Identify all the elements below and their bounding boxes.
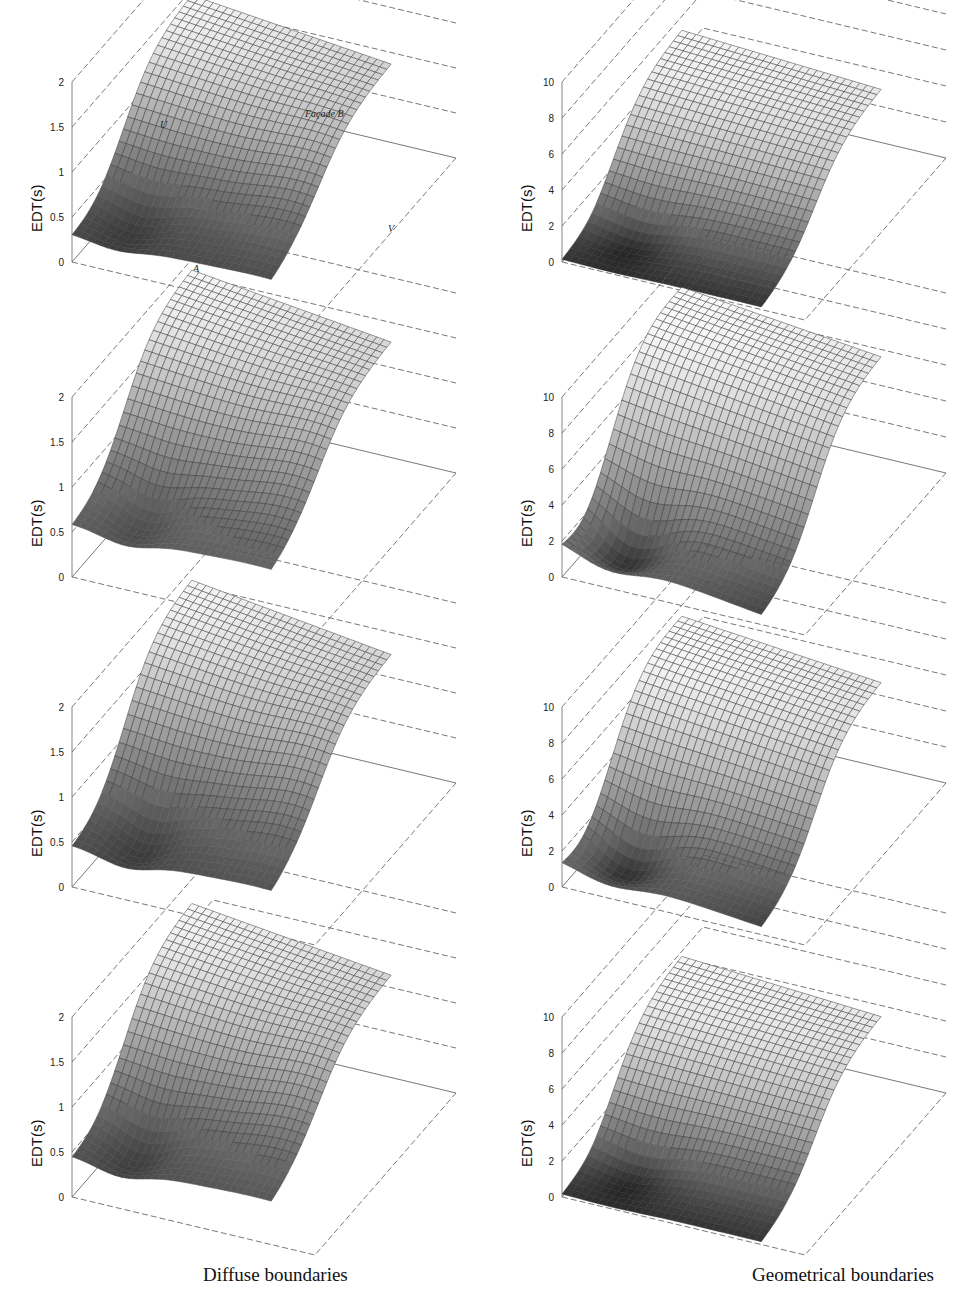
z-tick-label: 4: [548, 500, 554, 511]
z-tick-label: 8: [548, 113, 554, 124]
z-tick-label: 10: [543, 77, 555, 88]
z-tick-label: 2: [58, 702, 64, 713]
z-tick-label: 0: [548, 882, 554, 893]
z-tick-label: 2: [58, 392, 64, 403]
z-tick-label: 8: [548, 1048, 554, 1059]
z-tick-label: 2: [548, 221, 554, 232]
surface-plot-row2-left: 00.511.52 EDT(s): [0, 315, 480, 620]
z-axis-label: EDT(s): [518, 500, 535, 548]
surface-plot-row4-right: 0246810 EDT(s): [490, 935, 970, 1240]
surface-chart: 0246810: [490, 315, 970, 620]
z-tick-label: 0.5: [50, 837, 64, 848]
z-tick-label: 6: [548, 774, 554, 785]
z-tick-label: 2: [548, 846, 554, 857]
surface-chart: 0246810: [490, 625, 970, 930]
z-tick-label: 10: [543, 392, 555, 403]
surface-mesh: [72, 270, 391, 569]
z-tick-label: 0: [58, 257, 64, 268]
z-tick-label: 4: [548, 185, 554, 196]
z-axis-label: EDT(s): [28, 500, 45, 548]
z-tick-label: 10: [543, 702, 555, 713]
z-tick-label: 2: [58, 77, 64, 88]
surface-plot-row1-right: 0246810 EDT(s): [490, 0, 970, 305]
surface-chart: 00.511.52: [0, 935, 480, 1240]
z-tick-label: 4: [548, 1120, 554, 1131]
z-tick-label: 0.5: [50, 527, 64, 538]
z-tick-label: 8: [548, 738, 554, 749]
z-axis-label: EDT(s): [518, 1120, 535, 1168]
surface-mesh: [72, 0, 391, 279]
z-tick-label: 1.5: [50, 122, 64, 133]
z-tick-label: 0: [58, 1192, 64, 1203]
z-tick-label: 0: [548, 1192, 554, 1203]
surface-mesh: [562, 287, 881, 614]
z-tick-label: 10: [543, 1012, 555, 1023]
column-caption-geometrical: Geometrical boundaries: [752, 1264, 934, 1286]
column-caption-diffuse: Diffuse boundaries: [203, 1264, 348, 1286]
z-tick-label: 0.5: [50, 212, 64, 223]
z-tick-label: 1: [58, 792, 64, 803]
surface-plot-row1-left: 00.511.52Façade BUVA EDT(s): [0, 0, 480, 305]
z-tick-label: 1: [58, 167, 64, 178]
z-tick-label: 6: [548, 1084, 554, 1095]
surface-mesh: [562, 616, 881, 926]
z-tick-label: 8: [548, 428, 554, 439]
surface-plot-row3-left: 00.511.52 EDT(s): [0, 625, 480, 930]
z-axis-label: EDT(s): [28, 810, 45, 858]
surface-mesh: [72, 580, 391, 890]
surface-chart: 0246810: [490, 0, 970, 305]
z-tick-label: 6: [548, 464, 554, 475]
z-tick-label: 0.5: [50, 1147, 64, 1158]
z-tick-label: 0: [548, 257, 554, 268]
z-tick-label: 1: [58, 482, 64, 493]
z-tick-label: 6: [548, 149, 554, 160]
surface-chart: 00.511.52Façade BUVA: [0, 0, 480, 305]
z-axis-label: EDT(s): [28, 1120, 45, 1168]
z-tick-label: 0: [58, 572, 64, 583]
z-tick-label: 2: [548, 536, 554, 547]
z-axis-label: EDT(s): [518, 810, 535, 858]
z-tick-label: 2: [58, 1012, 64, 1023]
surface-plot-row4-left: 00.511.52 EDT(s): [0, 935, 480, 1240]
surface-plot-row3-right: 0246810 EDT(s): [490, 625, 970, 930]
z-tick-label: 0: [58, 882, 64, 893]
facade-b-label: Façade B: [304, 108, 344, 119]
z-axis-label: EDT(s): [28, 185, 45, 233]
z-axis-label: EDT(s): [518, 185, 535, 233]
surface-plot-row2-right: 0246810 EDT(s): [490, 315, 970, 620]
surface-chart: 00.511.52: [0, 315, 480, 620]
z-tick-label: 4: [548, 810, 554, 821]
z-tick-label: 0: [548, 572, 554, 583]
z-tick-label: 1.5: [50, 437, 64, 448]
surface-chart: 0246810: [490, 935, 970, 1240]
z-tick-label: 1.5: [50, 1057, 64, 1068]
surface-chart: 00.511.52: [0, 625, 480, 930]
u-label: U: [160, 119, 168, 130]
surface-mesh: [562, 30, 881, 307]
z-tick-label: 1.5: [50, 747, 64, 758]
z-tick-label: 2: [548, 1156, 554, 1167]
z-tick-label: 1: [58, 1102, 64, 1113]
surface-mesh: [562, 956, 881, 1241]
